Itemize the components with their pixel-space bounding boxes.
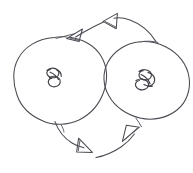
right-node-bottom-tail bbox=[136, 118, 142, 127]
node-left[interactable] bbox=[14, 37, 107, 132]
edge-top-curve-left-segment bbox=[76, 22, 104, 37]
left-node-bottom-tail bbox=[61, 125, 64, 132]
sketch-canvas: Two circular nodes joined by a pair of c… bbox=[0, 0, 193, 173]
edge-bottom[interactable] bbox=[55, 122, 139, 158]
top-right-arrowhead-crease bbox=[105, 22, 116, 28]
edge-bottom-curve-right-segment bbox=[96, 134, 134, 158]
right-node-scribble-icon bbox=[135, 70, 154, 90]
node-right[interactable] bbox=[104, 41, 190, 127]
left-node-scribble-icon bbox=[47, 68, 61, 87]
edge-top-curve-right-segment bbox=[114, 18, 156, 42]
diagram-svg: Two circular nodes joined by a pair of c… bbox=[0, 0, 193, 173]
